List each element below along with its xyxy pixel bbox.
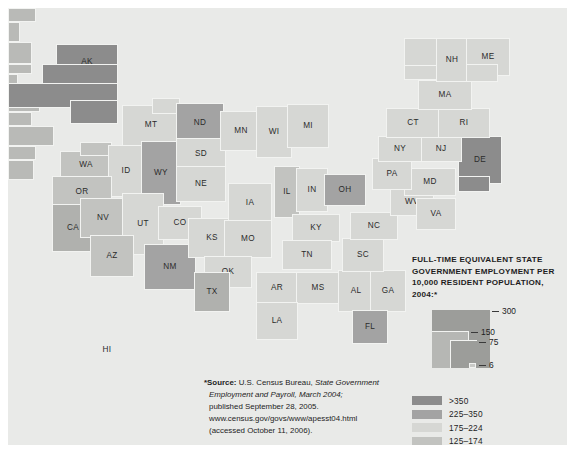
state-label-NE: NE [195, 180, 207, 188]
state-cell-CT[interactable]: CT [386, 108, 440, 138]
state-cell-VA[interactable]: VA [416, 198, 456, 230]
state-cell-NC[interactable]: NC [350, 212, 398, 240]
state-label-UT: UT [137, 220, 149, 228]
state-cell-ND[interactable]: ND [176, 103, 224, 143]
island-cell-9[interactable] [8, 126, 54, 146]
state-label-NY: NY [394, 145, 406, 153]
state-cell-KY[interactable]: KY [292, 214, 340, 242]
legend-label-0: >350 [449, 396, 469, 406]
source-line1: U.S. Census Bureau, [236, 378, 315, 387]
state-cell-NH[interactable]: NH [436, 38, 468, 82]
state-label-CA: CA [67, 224, 79, 232]
state-cell-PA[interactable]: PA [372, 158, 412, 190]
legend-tick-150: 150 [471, 327, 495, 337]
state-label-WY: WY [154, 169, 168, 177]
legend-tick-300: 300 [492, 306, 516, 316]
state-cell-MA[interactable]: MA [418, 80, 472, 110]
state-label-VA: VA [431, 210, 442, 218]
state-cell-NE[interactable]: NE [176, 166, 226, 202]
source-note: *Source: U.S. Census Bureau, State Gover… [204, 377, 439, 437]
state-label-MD: MD [423, 178, 436, 186]
island-cell-10[interactable] [8, 146, 36, 160]
state-label-LA: LA [272, 317, 283, 325]
state-label-NM: NM [163, 263, 176, 271]
state-label-OR: OR [76, 188, 89, 196]
legend-label-1: 225–350 [449, 409, 483, 419]
state-label-ME: ME [482, 53, 495, 61]
state-cell-AL[interactable]: AL [338, 270, 374, 312]
legend-size-nest: 300 150 75 6 [412, 310, 562, 384]
state-label-MO: MO [241, 235, 255, 243]
state-label-NV: NV [97, 214, 109, 222]
state-label-MI: MI [303, 122, 313, 130]
state-cell-SC[interactable]: SC [342, 238, 384, 272]
source-line3: published September 28, 2005. [204, 401, 439, 413]
state-label-WA: WA [79, 161, 93, 169]
state-cell-NY[interactable]: NY [378, 136, 422, 162]
state-cell-LA[interactable]: LA [256, 302, 298, 340]
state-label-FL: FL [365, 323, 375, 331]
state-label-OH: OH [339, 186, 352, 194]
source-prefix: *Source: [204, 378, 236, 387]
source-line1-italic: State Government [315, 378, 379, 387]
state-label-KS: KS [206, 234, 218, 242]
island-cell-4[interactable] [8, 64, 32, 74]
island-cell-8[interactable] [8, 112, 32, 126]
state-label-AR: AR [271, 284, 283, 292]
state-label-TX: TX [206, 288, 217, 296]
legend-size-box-6 [469, 363, 476, 368]
state-cell-DE-b[interactable] [458, 176, 490, 192]
state-label-HI: HI [103, 346, 112, 354]
state-label-MN: MN [234, 127, 247, 135]
state-cell-FL[interactable]: FL [352, 310, 388, 344]
state-cell-ID[interactable]: ID [108, 145, 144, 197]
map-plate: AK MT ND WA ID WY SD OR NE MN WI MI CA N… [8, 8, 567, 445]
island-cell-2[interactable] [8, 22, 20, 42]
state-cell-NV[interactable]: NV [80, 198, 126, 238]
state-cell-AZ[interactable]: AZ [90, 235, 134, 277]
legend-label-3: 125–174 [449, 436, 483, 445]
island-cell-11[interactable] [8, 160, 34, 180]
legend-title: FULL-TIME EQUIVALENT STATE GOVERNMENT EM… [412, 254, 564, 301]
island-cell-1[interactable] [8, 8, 36, 22]
state-cell-TN[interactable]: TN [282, 240, 332, 270]
state-cell-OH[interactable]: OH [324, 174, 366, 206]
source-line4: www.census.gov/govs/www/apesst04.html [204, 413, 439, 425]
state-label-IA: IA [246, 199, 254, 207]
state-label-TN: TN [301, 251, 313, 259]
state-cell-AK-d[interactable] [70, 100, 118, 124]
source-line5: (accessed October 11, 2006). [204, 425, 439, 437]
state-label-MT: MT [145, 121, 157, 129]
state-cell-AR[interactable]: AR [256, 272, 298, 304]
state-label-NH: NH [446, 56, 458, 64]
state-label-ND: ND [194, 119, 206, 127]
state-cell-NJ[interactable]: NJ [420, 136, 462, 162]
state-label-SC: SC [357, 251, 369, 259]
state-label-KY: KY [310, 224, 322, 232]
legend-tick-6: 6 [479, 360, 494, 370]
state-label-HI-box: HI [94, 344, 120, 356]
state-label-GA: GA [382, 287, 394, 295]
state-label-PA: PA [387, 170, 398, 178]
state-cell-MI[interactable]: MI [287, 104, 329, 148]
state-label-SD: SD [195, 150, 207, 158]
legend-tick-75: 75 [479, 337, 498, 347]
state-label-IL: IL [283, 188, 290, 196]
state-cell-MO[interactable]: MO [224, 220, 272, 258]
source-line2: Employment and Payroll, March 2004; [204, 389, 439, 401]
state-label-NC: NC [368, 222, 380, 230]
state-cell-GA[interactable]: GA [370, 270, 406, 312]
state-cell-MS[interactable]: MS [296, 272, 340, 304]
island-cell-3[interactable] [8, 42, 32, 64]
legend-swatch-3 [412, 437, 442, 445]
state-cell-RI[interactable]: RI [438, 108, 490, 138]
state-label-MS: MS [312, 284, 325, 292]
state-label-IN: IN [308, 186, 317, 194]
state-label-AZ: AZ [106, 252, 117, 260]
state-label-AL: AL [351, 287, 362, 295]
state-cell-ME-b[interactable] [466, 64, 498, 82]
state-cell-TX[interactable]: TX [194, 272, 230, 312]
legend-label-2: 175–224 [449, 423, 483, 433]
state-cell-IA[interactable]: IA [228, 183, 272, 223]
state-label-NJ: NJ [436, 145, 447, 153]
